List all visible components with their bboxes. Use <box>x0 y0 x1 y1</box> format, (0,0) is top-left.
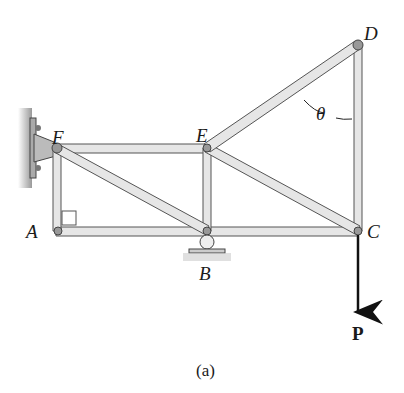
label-e: E <box>196 126 208 145</box>
label-theta: θ <box>316 104 325 123</box>
label-b: B <box>199 264 211 283</box>
label-d: D <box>364 24 378 43</box>
right-angle-mark <box>62 211 76 225</box>
caption: (a) <box>196 362 215 379</box>
truss-diagram <box>0 0 404 393</box>
roller-b <box>200 235 214 249</box>
label-c: C <box>367 222 380 241</box>
label-p: P <box>352 324 364 343</box>
label-f: F <box>52 128 64 147</box>
label-a: A <box>26 222 38 241</box>
